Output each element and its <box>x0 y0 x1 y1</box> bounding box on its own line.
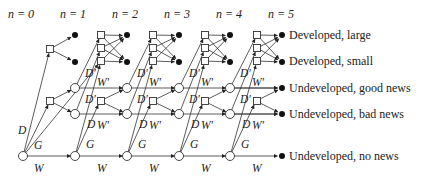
decision-node-square <box>98 58 105 65</box>
label-wait: W <box>34 162 45 174</box>
stage-header-0: n = 0 <box>8 7 34 21</box>
label-develop: D <box>17 124 27 136</box>
start-node-circle <box>19 152 28 161</box>
outcome-undeveloped-no-news: Undeveloped, no news <box>289 149 399 163</box>
stage-header-2: n = 2 <box>112 7 138 21</box>
label-develop-prime: D′ <box>239 93 251 105</box>
stage-header-4: n = 4 <box>216 7 242 21</box>
state-node-circle <box>175 84 184 93</box>
terminal-node-dot <box>124 59 130 65</box>
outcome-developed-large: Developed, large <box>289 28 371 42</box>
stage-header-3: n = 3 <box>164 7 190 21</box>
label-gather: G <box>241 138 250 150</box>
decision-node-square <box>202 45 209 52</box>
label-develop-prime: D′ <box>239 67 251 79</box>
label-wait-prime: W′ <box>252 76 265 88</box>
label-wait-prime: W′ <box>97 76 110 88</box>
decision-node-square <box>150 32 157 39</box>
label-develop-prime: D′ <box>188 67 200 79</box>
terminal-node-dot <box>176 32 182 38</box>
state-node-circle <box>71 152 80 161</box>
label-wait: W <box>97 162 108 174</box>
label-wait: W <box>252 162 263 174</box>
state-node-circle <box>226 84 235 93</box>
terminal-node-dot <box>227 59 233 65</box>
label-gather: G <box>190 138 199 150</box>
state-node-circle <box>123 110 132 119</box>
terminal-node-dot <box>279 32 285 38</box>
decision-node-square <box>98 98 105 105</box>
terminal-dot-good-news <box>279 85 285 91</box>
stage-header-5: n = 5 <box>268 7 294 21</box>
label-develop-prime: D′ <box>84 67 96 79</box>
top-decision-square <box>47 46 54 53</box>
decision-node-square <box>254 58 261 65</box>
terminal-dot-bad-news <box>279 111 285 117</box>
terminal-node-dot <box>124 32 130 38</box>
decision-node-square <box>150 45 157 52</box>
decision-node-square <box>202 98 209 105</box>
outcome-undeveloped-bad-news: Undeveloped, bad news <box>289 107 404 121</box>
decision-tree-diagram: n = 0 n = 1 n = 2 n = 3 n = 4 n = 5 DGWD… <box>0 0 421 177</box>
label-wait-prime: W′ <box>97 119 110 131</box>
label-develop: D <box>138 118 148 130</box>
label-develop: D <box>86 118 96 130</box>
state-node-circle <box>175 110 184 119</box>
state-node-circle <box>175 152 184 161</box>
decision-node-square <box>254 98 261 105</box>
terminal-node-dot <box>227 32 233 38</box>
terminal-node-dot <box>176 59 182 65</box>
label-develop-prime: D′ <box>136 67 148 79</box>
decision-node-square <box>202 32 209 39</box>
decision-node-square <box>98 45 105 52</box>
decision-node-square <box>150 98 157 105</box>
label-develop: D <box>190 118 200 130</box>
state-node-circle <box>123 84 132 93</box>
label-wait-prime: W′ <box>149 119 162 131</box>
label-wait: W <box>149 162 160 174</box>
label-wait: W <box>201 162 212 174</box>
label-wait-prime: W′ <box>252 119 265 131</box>
label-wait-prime: W′ <box>201 76 214 88</box>
label-wait-prime: W′ <box>149 76 162 88</box>
state-node-circle <box>71 110 80 119</box>
outcome-undeveloped-good-news: Undeveloped, good news <box>289 81 411 95</box>
decision-node-square <box>150 58 157 65</box>
label-gather: G <box>86 138 95 150</box>
stage-header-1: n = 1 <box>60 7 86 21</box>
decision-node-square <box>202 58 209 65</box>
label-develop-prime: D′ <box>84 93 96 105</box>
decision-node-square <box>254 32 261 39</box>
label-gather: G <box>138 138 147 150</box>
stage-headers: n = 0 n = 1 n = 2 n = 3 n = 4 n = 5 <box>8 7 294 21</box>
terminal-dot <box>72 32 78 38</box>
decision-node-square <box>98 32 105 39</box>
label-develop-prime: D′ <box>188 93 200 105</box>
state-node-circle <box>226 110 235 119</box>
outcome-labels: Developed, large Developed, small Undeve… <box>289 28 411 163</box>
terminal-dot-no-news <box>279 153 285 159</box>
terminal-node-dot <box>279 59 285 65</box>
state-node-circle <box>123 152 132 161</box>
label-develop: D <box>241 118 251 130</box>
label-develop-prime: D′ <box>136 93 148 105</box>
state-node-circle <box>71 84 80 93</box>
label-wait-prime: W′ <box>201 119 214 131</box>
decision-node-square <box>254 45 261 52</box>
gather-decision-square <box>47 98 54 105</box>
label-gather: G <box>34 139 43 151</box>
outcome-developed-small: Developed, small <box>289 54 374 68</box>
state-node-circle <box>226 152 235 161</box>
terminal-dot <box>72 59 78 65</box>
